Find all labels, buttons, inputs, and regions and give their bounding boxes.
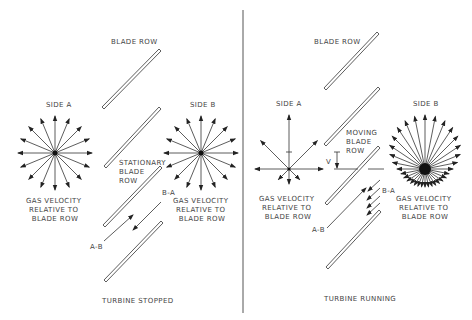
blade — [104, 221, 163, 282]
velocity-arrow — [425, 136, 458, 169]
stationary-blade-row-label: STATIONARY BLADE ROW — [119, 159, 169, 185]
velocity-arrow — [29, 153, 55, 179]
velocity-arrow — [261, 141, 289, 169]
side-b-label: SIDE B — [190, 101, 216, 109]
right-panel-turbine-running: BLADE ROW SIDE A SIDE B MOVING BLADE ROW… — [255, 32, 460, 303]
turbine-stopped-caption: TURBINE STOPPED — [101, 297, 174, 305]
velocity-arrow — [201, 153, 227, 179]
turbine-running-caption: TURBINE RUNNING — [323, 295, 396, 303]
velocity-arrow — [175, 127, 201, 153]
side-a-label: SIDE A — [46, 101, 72, 109]
left-panel-turbine-stopped: BLADE ROW SIDE A SIDE B STATIONARY BLADE… — [18, 38, 238, 305]
velocity-arrow — [201, 127, 227, 153]
blade-row-label: BLADE ROW — [111, 38, 158, 46]
blade-row-label: BLADE ROW — [314, 38, 361, 46]
b-a-label: B-A — [382, 187, 395, 195]
turbine-diagram: BLADE ROW SIDE A SIDE B STATIONARY BLADE… — [0, 0, 472, 320]
center-dot — [287, 167, 290, 170]
side-b-velocity-caption: GAS VELOCITY RELATIVE TO BLADE ROW — [173, 197, 231, 223]
side-a-velocity-star — [255, 115, 323, 184]
b-a-label: B-A — [162, 189, 175, 197]
side-a-label: SIDE A — [276, 100, 302, 108]
side-b-velocity-star — [390, 115, 461, 187]
velocity-v-label: V — [326, 158, 331, 166]
side-b-velocity-caption: GAS VELOCITY RELATIVE TO BLADE ROW — [396, 195, 454, 221]
a-b-label: A-B — [312, 226, 325, 234]
velocity-arrow — [278, 169, 289, 180]
velocity-arrow — [29, 127, 55, 153]
velocity-arrow — [289, 169, 300, 180]
velocity-arrow — [392, 136, 425, 169]
side-a-velocity-caption: GAS VELOCITY RELATIVE TO BLADE ROW — [26, 197, 84, 223]
velocity-arrow — [289, 141, 317, 169]
side-a-velocity-caption: GAS VELOCITY RELATIVE TO BLADE ROW — [259, 195, 317, 221]
center-dot — [53, 151, 58, 156]
side-b-label: SIDE B — [413, 100, 439, 108]
velocity-arrow — [55, 127, 81, 153]
a-b-label: A-B — [90, 243, 103, 251]
blade — [326, 210, 381, 269]
center-dot — [199, 151, 204, 156]
velocity-arrow — [175, 153, 201, 179]
velocity-arrow — [55, 153, 81, 179]
blade — [102, 49, 161, 109]
flow-arrows-b-to-a — [367, 180, 380, 215]
center-dot — [419, 163, 431, 175]
